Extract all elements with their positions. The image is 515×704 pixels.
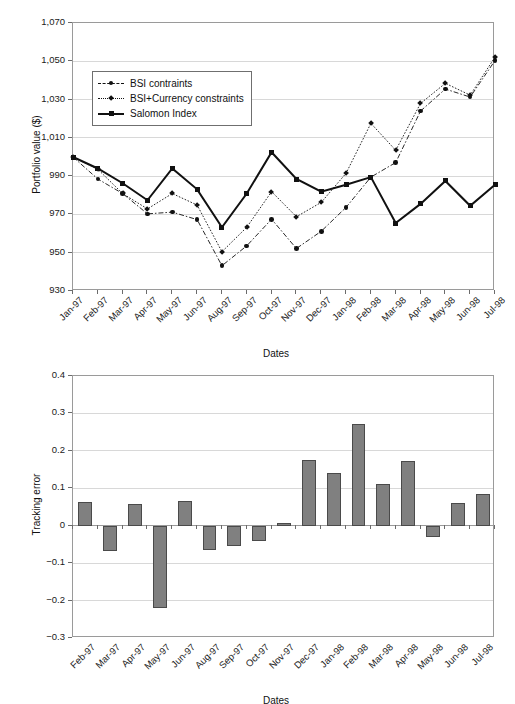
x-tick-mark bbox=[146, 290, 147, 294]
bar bbox=[178, 501, 192, 525]
bar bbox=[78, 502, 92, 526]
x-tick-mark bbox=[494, 290, 495, 294]
y-tick-mark bbox=[68, 213, 72, 214]
data-point bbox=[170, 210, 175, 215]
data-point bbox=[493, 182, 498, 187]
data-point bbox=[393, 221, 398, 226]
data-point bbox=[344, 205, 349, 210]
x-tick-mark bbox=[221, 290, 222, 294]
chart-tracking-error: −0.3−0.2−0.100.10.20.30.4Feb-97Mar-97Apr… bbox=[0, 355, 515, 704]
y-tick-label: 1,070 bbox=[5, 17, 65, 27]
x-tick-mark bbox=[444, 525, 445, 529]
gridline bbox=[73, 413, 493, 414]
y-tick-mark bbox=[68, 637, 72, 638]
gridline bbox=[73, 488, 493, 489]
data-point bbox=[170, 166, 175, 171]
data-point bbox=[468, 203, 473, 208]
data-point bbox=[393, 160, 398, 165]
data-point bbox=[443, 87, 448, 92]
y-axis-title: Tracking error bbox=[31, 445, 42, 565]
legend-marker bbox=[108, 95, 114, 101]
bar bbox=[277, 523, 291, 525]
x-tick-mark bbox=[345, 290, 346, 294]
x-tick-mark bbox=[97, 290, 98, 294]
bar bbox=[203, 526, 217, 551]
legend-key bbox=[98, 108, 124, 120]
y-tick-mark bbox=[68, 375, 72, 376]
x-tick-mark bbox=[271, 525, 272, 529]
bar bbox=[476, 494, 490, 525]
bar bbox=[352, 424, 366, 526]
y-tick-mark bbox=[68, 450, 72, 451]
x-tick-mark bbox=[246, 290, 247, 294]
x-tick-mark bbox=[320, 525, 321, 529]
legend-marker bbox=[109, 81, 114, 86]
x-tick-mark bbox=[420, 525, 421, 529]
y-tick-mark bbox=[68, 252, 72, 253]
data-point bbox=[145, 198, 150, 203]
bar bbox=[227, 526, 241, 547]
legend-item: BSI contraints bbox=[98, 76, 244, 91]
y-tick-mark bbox=[68, 137, 72, 138]
x-tick-mark bbox=[122, 525, 123, 529]
data-point bbox=[219, 225, 224, 230]
x-tick-mark bbox=[122, 290, 123, 294]
data-point bbox=[368, 175, 373, 180]
x-tick-mark bbox=[221, 525, 222, 529]
legend-key bbox=[98, 93, 124, 105]
y-tick-label: 1,050 bbox=[5, 55, 65, 65]
x-tick-mark bbox=[295, 290, 296, 294]
x-tick-mark bbox=[444, 290, 445, 294]
bar bbox=[327, 473, 341, 525]
x-tick-mark bbox=[469, 290, 470, 294]
bar bbox=[153, 526, 167, 609]
data-point bbox=[269, 217, 274, 222]
bar bbox=[426, 526, 440, 537]
bar bbox=[252, 526, 266, 541]
y-tick-label: 0.3 bbox=[5, 407, 65, 417]
x-tick-mark bbox=[171, 290, 172, 294]
figure-container: 9309509709901,0101,0301,0501,070Jan-97Fe… bbox=[0, 0, 515, 704]
legend-item: BSI+Currency constraints bbox=[98, 91, 244, 106]
x-tick-mark bbox=[395, 525, 396, 529]
chart-portfolio-value: 9309509709901,0101,0301,0501,070Jan-97Fe… bbox=[0, 0, 515, 355]
data-point bbox=[195, 187, 200, 192]
bar bbox=[103, 526, 117, 551]
series-line bbox=[73, 152, 495, 227]
data-point bbox=[443, 178, 448, 183]
legend-marker bbox=[109, 111, 114, 116]
chart-legend: BSI contraintsBSI+Currency constraintsSa… bbox=[92, 71, 252, 126]
x-tick-mark bbox=[246, 525, 247, 529]
y-axis-title: Portfolio value ($) bbox=[31, 95, 42, 215]
y-tick-label: 0.4 bbox=[5, 370, 65, 380]
x-tick-mark bbox=[146, 525, 147, 529]
legend-item: Salomon Index bbox=[98, 106, 244, 121]
x-tick-mark bbox=[72, 525, 73, 529]
plot-area bbox=[72, 375, 494, 637]
x-tick-mark bbox=[345, 525, 346, 529]
bar bbox=[401, 461, 415, 526]
gridline bbox=[73, 563, 493, 564]
bar bbox=[302, 460, 316, 526]
x-tick-mark bbox=[420, 290, 421, 294]
series-lines bbox=[73, 23, 495, 291]
gridline bbox=[73, 450, 493, 451]
y-tick-label: 950 bbox=[5, 247, 65, 257]
x-tick-mark bbox=[469, 525, 470, 529]
data-point bbox=[418, 201, 423, 206]
data-point bbox=[145, 212, 150, 217]
y-tick-mark bbox=[68, 600, 72, 601]
y-tick-mark bbox=[68, 487, 72, 488]
x-tick-mark bbox=[72, 290, 73, 294]
gridline bbox=[73, 600, 493, 601]
y-tick-mark bbox=[68, 22, 72, 23]
x-tick-mark bbox=[171, 525, 172, 529]
legend-label: BSI+Currency constraints bbox=[130, 93, 244, 104]
legend-key bbox=[98, 78, 124, 90]
data-point bbox=[269, 150, 274, 155]
x-tick-mark bbox=[196, 525, 197, 529]
bar bbox=[128, 504, 142, 526]
x-tick-mark bbox=[97, 525, 98, 529]
data-point bbox=[244, 191, 249, 196]
x-tick-mark bbox=[494, 525, 495, 529]
